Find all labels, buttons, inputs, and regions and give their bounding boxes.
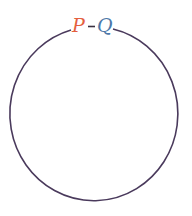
node-label-p: P <box>71 14 86 36</box>
node-label-q: Q <box>97 14 113 36</box>
cycle-diagram: P Q <box>0 0 192 216</box>
loop-arc <box>10 29 178 201</box>
